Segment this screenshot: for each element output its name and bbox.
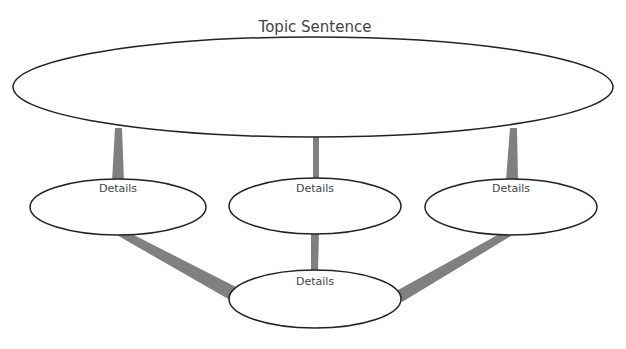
detail-label-right: Details — [492, 182, 530, 195]
connector-topic-to-detail-right — [506, 128, 518, 180]
connector-detail-center-to-bottom — [311, 232, 319, 272]
connector-detail-right-to-bottom — [398, 232, 511, 302]
detail-label-bottom: Details — [296, 275, 334, 288]
connector-detail-left-to-bottom — [115, 230, 238, 300]
connector-topic-to-detail-left — [112, 128, 124, 182]
topic-sentence-organizer: Topic Sentence Details Details Details D… — [0, 0, 626, 349]
detail-label-center: Details — [296, 182, 334, 195]
detail-label-left: Details — [99, 182, 137, 195]
topic-sentence-label: Topic Sentence — [258, 18, 372, 36]
topic-sentence-ellipse[interactable] — [13, 37, 613, 137]
connector-topic-to-detail-center — [313, 135, 319, 180]
